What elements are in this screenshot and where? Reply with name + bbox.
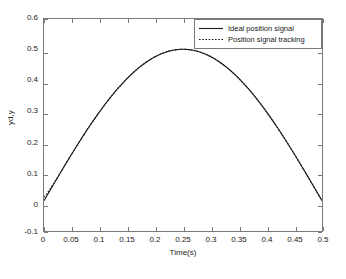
x-tick-mark-top — [128, 19, 129, 23]
x-tick-label: 0.2 — [149, 235, 160, 245]
x-tick-label: 0.05 — [63, 235, 79, 245]
plot-area — [43, 18, 323, 232]
x-tick-mark — [128, 227, 129, 231]
y-tick-mark-right — [318, 232, 322, 233]
y-tick-mark-right — [318, 53, 322, 54]
y-tick-mark — [44, 84, 48, 85]
y-tick-label: 0 — [38, 200, 42, 210]
x-tick-mark-top — [156, 19, 157, 23]
legend-item-ideal-position-signal: Ideal position signal — [198, 23, 317, 34]
x-tick-label: 0.45 — [287, 235, 303, 245]
figure-canvas: yd,y -0.1 0 0.1 0.2 0.3 0.4 0.5 0.6 0 0.… — [0, 0, 346, 279]
y-tick-mark — [44, 232, 48, 233]
legend-line-dotted-icon — [198, 35, 224, 44]
x-tick-mark — [323, 227, 324, 231]
curve-ideal-position-signal — [44, 49, 322, 200]
x-axis-label: Time(s) — [43, 248, 323, 257]
x-tick-mark — [44, 227, 45, 231]
plot-curves — [44, 19, 322, 231]
x-tick-mark — [212, 227, 213, 231]
x-tick-label: 0.25 — [175, 235, 191, 245]
y-tick-mark — [44, 206, 48, 207]
y-tick-mark — [44, 145, 48, 146]
x-tick-mark-top — [100, 19, 101, 23]
y-tick-mark-right — [318, 206, 322, 207]
x-tick-mark-top — [72, 19, 73, 23]
x-tick-mark-top — [184, 19, 185, 23]
legend-line-solid-icon — [198, 24, 224, 33]
legend-item-position-signal-tracking: Position signal tracking — [198, 34, 317, 45]
legend-box: Ideal position signal Position signal tr… — [194, 19, 322, 49]
y-tick-mark — [44, 114, 48, 115]
x-tick-label: 0 — [41, 235, 45, 245]
y-tick-mark — [44, 53, 48, 54]
x-tick-mark-top — [323, 19, 324, 23]
curve-position-signal-tracking — [44, 49, 322, 200]
y-tick-mark-right — [318, 175, 322, 176]
y-axis-label: yd,y — [6, 110, 15, 125]
legend-label: Position signal tracking — [228, 35, 305, 44]
y-tick-mark-right — [318, 114, 322, 115]
x-tick-mark — [268, 227, 269, 231]
x-tick-label: 0.15 — [119, 235, 135, 245]
x-tick-label: 0.1 — [93, 235, 104, 245]
x-tick-label: 0.35 — [231, 235, 247, 245]
x-tick-mark — [100, 227, 101, 231]
y-tick-mark-right — [318, 145, 322, 146]
x-tick-mark — [184, 227, 185, 231]
x-tick-mark — [156, 227, 157, 231]
y-tick-mark — [44, 175, 48, 176]
x-tick-mark — [296, 227, 297, 231]
y-tick-mark — [44, 19, 48, 20]
x-tick-mark — [72, 227, 73, 231]
x-tick-label: 0.5 — [317, 235, 328, 245]
x-tick-mark — [240, 227, 241, 231]
x-tick-label: 0.3 — [205, 235, 216, 245]
x-tick-label: 0.4 — [261, 235, 272, 245]
y-tick-mark-right — [318, 84, 322, 85]
legend-label: Ideal position signal — [228, 24, 294, 33]
